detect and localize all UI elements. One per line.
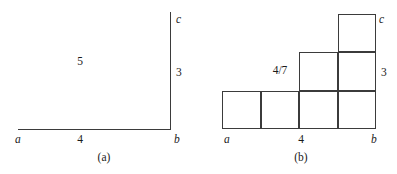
figure-root: a 4 b 3 c 5 (a) a 4 b 3 c 4/7 (b) [0,0,397,174]
grid-cell [338,91,377,130]
panel-b-ratio-label: 4/7 [273,65,288,77]
panel-b-vertex-b-label: b [371,134,377,146]
grid-cell [261,91,300,130]
panel-a-right-length-label: 3 [176,67,182,79]
panel-a-area-label: 5 [77,56,83,68]
panel-a-right-segment [170,12,171,130]
panel-b-bottom-length-label: 4 [298,134,304,146]
panel-b-right-length-label: 3 [381,67,387,79]
grid-cell [222,91,261,130]
panel-a-vertex-b-label: b [174,134,180,146]
panel-a-vertex-a-label: a [15,134,21,146]
grid-cell [338,52,377,91]
panel-b-vertex-c-label: c [379,14,384,26]
panel-b-caption: (b) [294,152,307,164]
panel-a-bottom-segment [18,129,171,130]
panel-a: a 4 b 3 c 5 (a) [0,0,197,174]
panel-b: a 4 b 3 c 4/7 (b) [197,0,397,174]
panel-a-caption: (a) [98,152,111,164]
panel-a-vertex-c-label: c [176,14,181,26]
grid-cell [338,14,377,53]
grid-cell [299,91,338,130]
grid-cell [299,52,338,91]
panel-a-bottom-length-label: 4 [77,134,83,146]
panel-b-vertex-a-label: a [224,134,230,146]
